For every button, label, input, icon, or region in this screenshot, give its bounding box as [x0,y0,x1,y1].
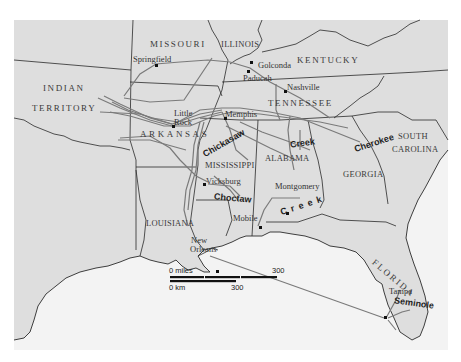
label-new-orleans-2: Orleans [190,245,216,254]
label-tampa: Tampa [389,287,412,296]
label-springfield: Springfield [133,55,171,64]
label-georgia: GEORGIA [343,170,383,179]
scale-km-start: 0 km [169,284,185,292]
scale-miles-start: 0 miles [169,267,193,275]
label-tennessee: TENNESSEE [268,99,333,108]
label-missouri: MISSOURI [150,40,206,49]
scale-miles-end: 300 [272,267,285,275]
label-vicksburg: Vicksburg [206,177,241,186]
label-south-carolina-2: CAROLINA [392,145,438,154]
label-alabama: ALABAMA [265,154,309,163]
label-mobile: Mobile [233,214,258,223]
label-paducah: Paducah [243,74,272,83]
label-kentucky: KENTUCKY [297,56,359,65]
label-arkansas: ARKANSAS [140,130,209,139]
label-little-rock-2: Rock [174,118,192,127]
label-south-carolina-1: SOUTH [398,132,428,141]
label-montgomery: Montgomery [275,182,319,191]
label-memphis: Memphis [225,110,257,119]
label-indian-territory-2: TERRITORY [32,104,96,113]
label-illinois: ILLINOIS [221,40,259,49]
label-indian-territory-1: INDIAN [43,84,85,93]
label-nashville: Nashville [287,83,320,92]
scale-km-end: 300 [231,284,244,292]
label-mississippi: MISSISSIPPI [205,161,254,170]
label-louisiana: LOUISIANA [146,219,194,228]
label-golconda: Golconda [258,61,291,70]
